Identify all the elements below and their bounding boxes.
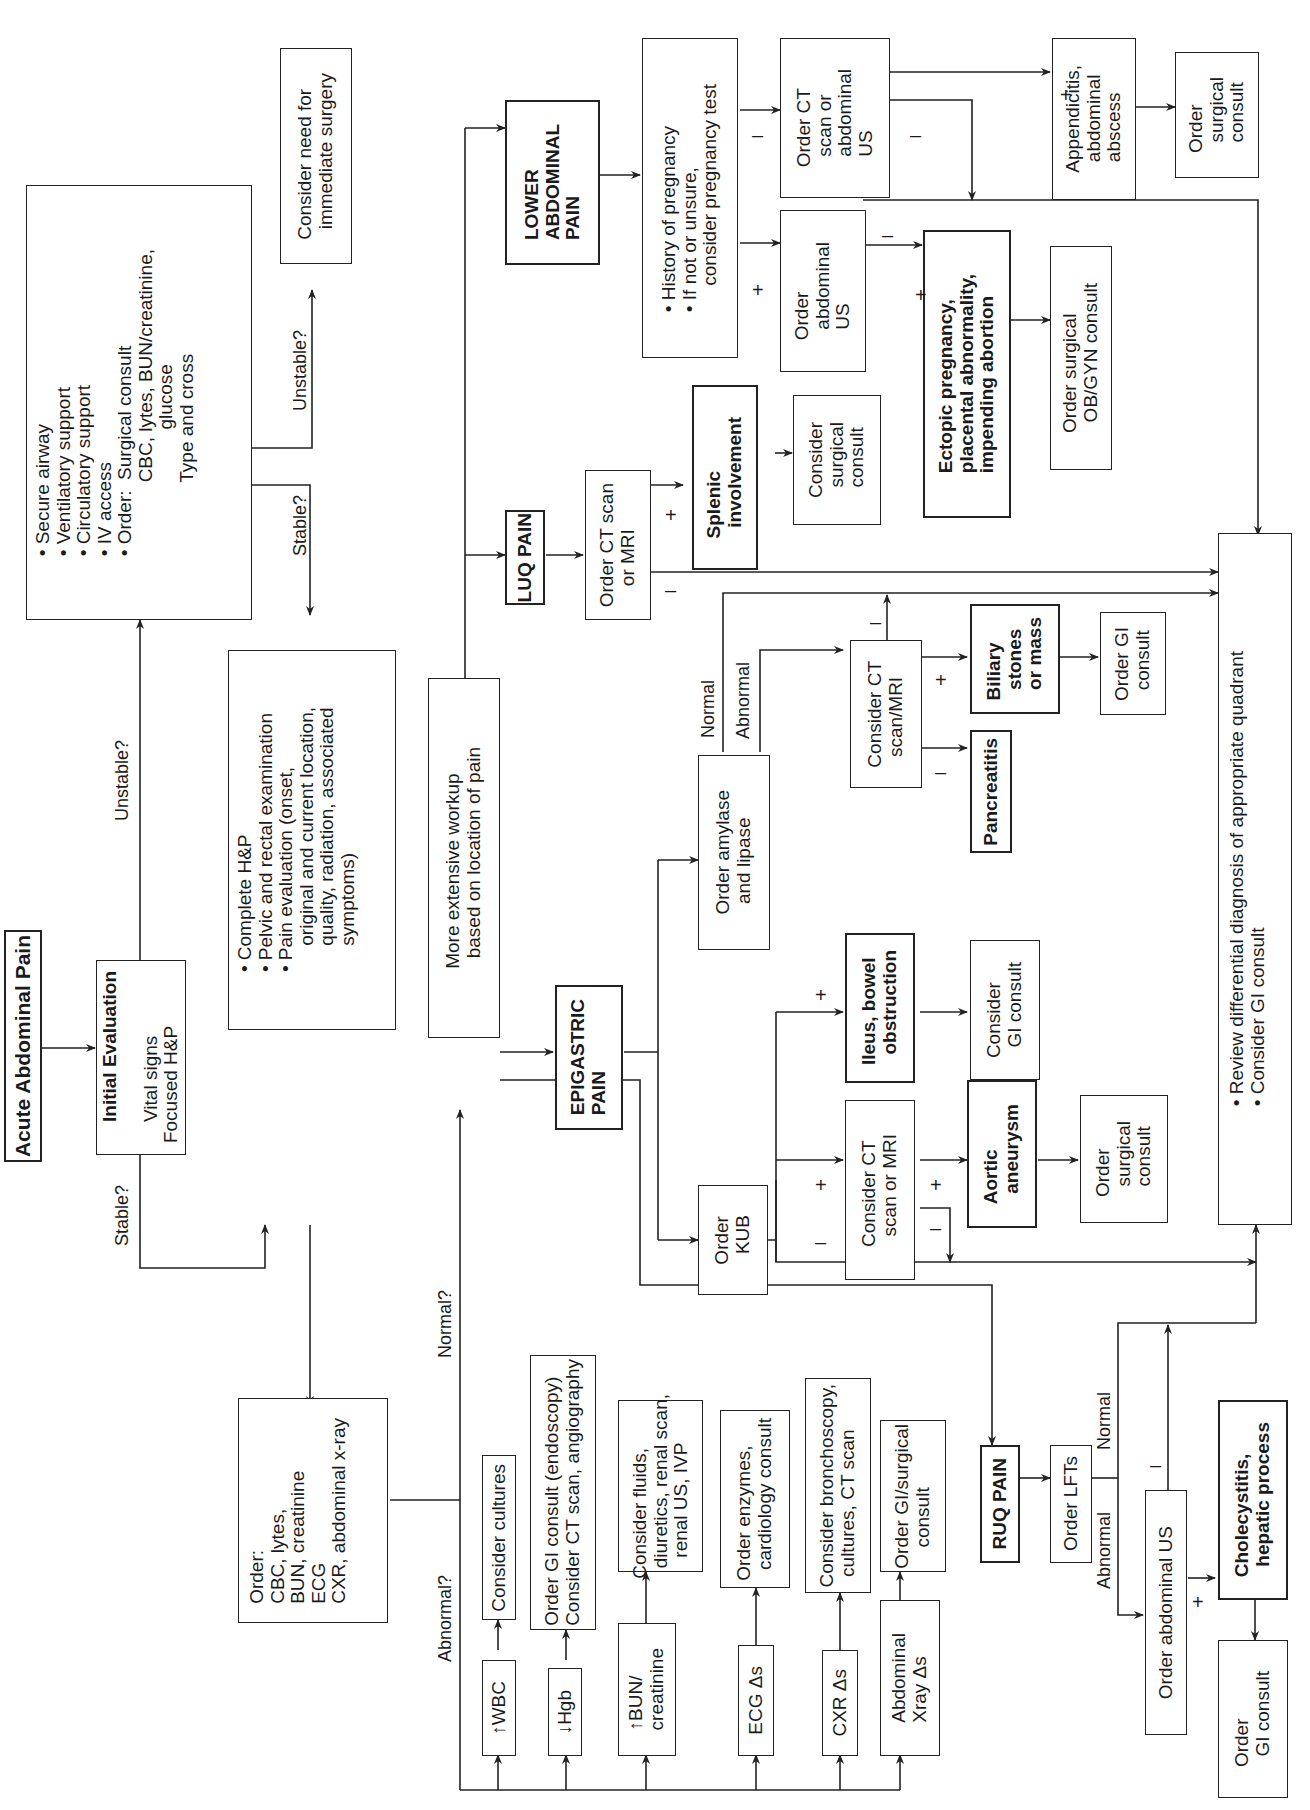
finding-bun: ↑BUN/ creatinine (618, 1623, 676, 1756)
ruq-gi-consult-text: Order GI consult (1232, 1671, 1273, 1767)
acute-abdominal-pain-flowchart: Acute Abdominal Pain Initial Evaluation … (0, 0, 1310, 1810)
luq-pain-heading: LUQ PAIN (515, 513, 536, 602)
initial-evaluation-lines: Vital signs Focused H&P (140, 1026, 182, 1143)
action-bronchoscopy-text: Consider bronchoscopy, cultures, CT scan (817, 1384, 858, 1587)
sign-minus: – (752, 125, 763, 145)
finding-wbc: ↑WBC (482, 1660, 516, 1756)
finding-ecg: ECG Δs (738, 1645, 774, 1756)
amylase-lipase-text: Order amylase and lipase (713, 790, 754, 915)
amylase-lipase-box: Order amylase and lipase (698, 755, 770, 950)
finding-hgb: ↓Hgb (548, 1668, 582, 1756)
action-gi-surgical-text: Order GI/surgical consult (892, 1424, 933, 1569)
finding-abdominal-xray-text: Abdominal Xray Δs (889, 1633, 930, 1723)
cholecystitis-box: Cholecystitis, hepatic process (1218, 1400, 1288, 1600)
extensive-workup-text: More extensive workup based on location … (443, 747, 484, 969)
order-surgical-consult-box: Order surgical consult (1175, 52, 1259, 178)
label-abnormal-question: Abnormal? (435, 1575, 456, 1662)
action-cardiology-text: Order enzymes, cardiology consult (734, 1418, 775, 1581)
label-amylase-normal: Normal (698, 680, 719, 738)
label-lft-normal: Normal (1094, 1392, 1115, 1450)
immediate-surgery-text: Consider need for immediate surgery (295, 73, 336, 240)
label-normal-question: Normal? (435, 1290, 456, 1358)
title: Acute Abdominal Pain (12, 935, 35, 1157)
ileus-box: Ileus, bowel obstruction (845, 933, 915, 1083)
biliary-stones-box: Biliary stones or mass (970, 604, 1060, 714)
aortic-aneurysm-box: Aortic aneurysm (967, 1080, 1037, 1228)
finding-cxr: CXR Δs (822, 1650, 858, 1756)
ectopic-pregnancy-text: Ectopic pregnancy, placental abnormality… (936, 274, 998, 473)
aortic-aneurysm-text: Aortic aneurysm (981, 1104, 1022, 1204)
sign-plus: + (815, 985, 827, 1005)
order-gi-consult-text: Order GI consult (1112, 627, 1153, 701)
obgyn-consult-box: Order surgical OB/GYN consult (1050, 246, 1112, 470)
ileus-text: Ileus, bowel obstruction (859, 950, 900, 1065)
sign-minus: – (665, 580, 676, 600)
sign-minus: – (870, 612, 881, 632)
luq-pain-box: LUQ PAIN (505, 510, 545, 605)
finding-abdominal-xray: Abdominal Xray Δs (880, 1600, 940, 1756)
finding-wbc-text: ↑WBC (489, 1681, 510, 1735)
ruq-pain-heading: RUQ PAIN (990, 1458, 1011, 1549)
initial-evaluation-box: Initial Evaluation Vital signs Focused H… (96, 960, 186, 1155)
title-box: Acute Abdominal Pain (4, 930, 42, 1162)
splenic-involvement-box: Splenic involvement (692, 385, 758, 570)
sign-plus: + (1192, 1592, 1204, 1612)
appendicitis-text: Appendicitis, abdominal abscess (1063, 65, 1125, 173)
pregnancy-history-box: • History of pregnancy • If not or unsur… (642, 38, 738, 358)
sign-plus: + (930, 1175, 942, 1195)
lower-abdominal-pain-heading: LOWER ABDOMINAL PAIN (522, 124, 584, 240)
epigastric-surgical-consult-box: Order surgical consult (1080, 1095, 1168, 1223)
finding-hgb-text: ↓Hgb (555, 1690, 576, 1734)
order-gi-consult-box: Order GI consult (1100, 612, 1166, 715)
sign-plus: + (915, 285, 927, 305)
pregnancy-history-text: • History of pregnancy • If not or unsur… (659, 84, 721, 312)
sign-minus: – (815, 1232, 826, 1252)
luq-order-ct-box: Order CT scan or MRI (585, 470, 651, 620)
order-lfts-box: Order LFTs (1050, 1445, 1092, 1563)
initial-evaluation-content: Initial Evaluation Vital signs Focused H… (79, 971, 202, 1143)
finding-cxr-text: CXR Δs (830, 1669, 851, 1737)
ectopic-pregnancy-box: Ectopic pregnancy, placental abnormality… (923, 230, 1011, 518)
consider-ct-mri-box: Consider CT scan/MRI (850, 640, 922, 788)
action-cultures: Consider cultures (482, 1455, 516, 1620)
action-fluids: Consider fluids, diuretics, renal scan, … (618, 1400, 703, 1572)
appendicitis-box: Appendicitis, abdominal abscess (1052, 38, 1136, 200)
sign-plus: + (665, 505, 677, 525)
sign-plus: + (815, 1175, 827, 1195)
epigastric-pain-box: EPIGASTRIC PAIN (555, 985, 623, 1130)
consider-ct-mri-2-box: Consider CT scan or MRI (845, 1100, 915, 1280)
sign-minus: – (910, 125, 921, 145)
splenic-involvement-text: Splenic involvement (704, 417, 745, 538)
initial-evaluation-heading: Initial Evaluation (99, 971, 120, 1122)
epigastric-surgical-consult-text: Order surgical consult (1093, 1121, 1155, 1197)
action-fluids-text: Consider fluids, diuretics, renal scan, … (630, 1394, 692, 1579)
ruq-abdominal-us-text: Order abdominal US (1156, 1526, 1177, 1699)
consider-ct-mri-text: Consider CT scan/MRI (865, 661, 906, 768)
sign-minus: – (935, 762, 946, 782)
complete-hp-text: • Complete H&P • Pelvic and rectal exami… (235, 707, 358, 972)
pancreatitis-text: Pancreatitis (981, 738, 1002, 846)
sign-plus: + (1060, 85, 1072, 105)
stabilization-box: • Secure airway • Ventilatory support • … (26, 185, 252, 620)
action-cultures-text: Consider cultures (489, 1464, 510, 1612)
action-cardiology: Order enzymes, cardiology consult (720, 1410, 790, 1588)
sign-minus: – (930, 1218, 941, 1238)
finding-ecg-text: ECG Δs (746, 1666, 767, 1735)
ruq-gi-consult-box: Order GI consult (1218, 1640, 1288, 1798)
order-lfts-text: Order LFTs (1061, 1456, 1082, 1551)
sign-plus: + (752, 280, 764, 300)
order-abdominal-us-box: Order abdominal US (780, 210, 866, 372)
sign-minus: – (882, 225, 893, 245)
consider-ct-mri-2-text: Consider CT scan or MRI (859, 1134, 900, 1247)
order-surgical-consult-text: Order surgical consult (1186, 77, 1248, 153)
lower-abdominal-pain-box: LOWER ABDOMINAL PAIN (505, 100, 600, 265)
stabilization-text: • Secure airway • Ventilatory support • … (33, 249, 197, 556)
label-unstable-2: Unstable? (290, 330, 311, 411)
action-gi-endoscopy-text: Order GI consult (endoscopy) Consider CT… (542, 1359, 583, 1626)
order-ct-or-us-box: Order CT scan or abdominal US (780, 38, 890, 198)
complete-hp-box: • Complete H&P • Pelvic and rectal exami… (228, 650, 396, 1030)
order-kub-text: Order KUB (712, 1215, 753, 1265)
finding-bun-text: ↑BUN/ creatinine (626, 1648, 667, 1730)
ruq-abdominal-us-box: Order abdominal US (1145, 1490, 1187, 1735)
sign-minus: – (1150, 1455, 1161, 1475)
